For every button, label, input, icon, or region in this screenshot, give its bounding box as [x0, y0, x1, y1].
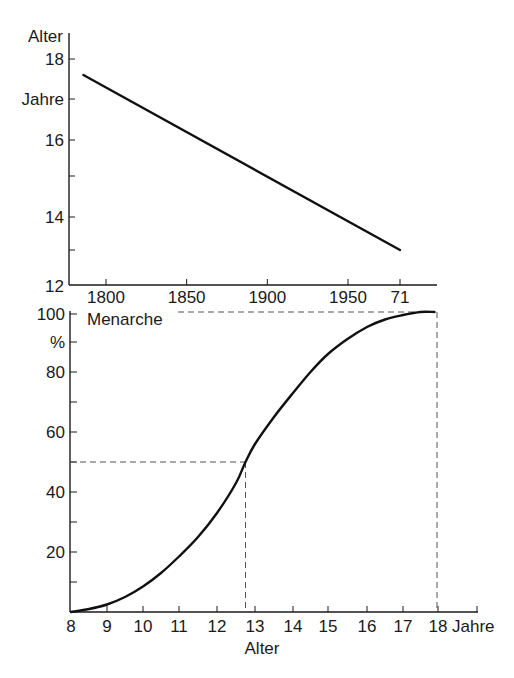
- x-tick-label: 18: [429, 617, 448, 636]
- x-axis-unit: Jahre: [452, 617, 495, 636]
- y-tick-label: 18: [45, 50, 64, 69]
- y-tick-label: %: [50, 333, 65, 352]
- x-tick-label: 9: [102, 617, 111, 636]
- x-tick-label: 1900: [248, 288, 286, 307]
- x-axis-title: Alter: [245, 639, 280, 658]
- y-tick-label: 100: [37, 305, 65, 324]
- x-tick-label: 1950: [329, 288, 367, 307]
- x-tick-label: 71: [391, 288, 410, 307]
- x-tick-label: 1850: [168, 288, 206, 307]
- x-tick-label: 11: [170, 617, 188, 636]
- x-tick-label: 8: [66, 617, 75, 636]
- y-tick-label: 14: [45, 208, 64, 227]
- y-tick-label: Jahre: [21, 90, 64, 109]
- x-tick-label: 13: [246, 617, 265, 636]
- x-tick-label: 16: [358, 617, 377, 636]
- x-tick-label: 10: [134, 617, 153, 636]
- top-y-axis-title: Alter: [28, 27, 63, 46]
- y-tick-label: 80: [46, 363, 65, 382]
- age-trend-chart: 121416Jahre18Alter180018501900195071: [21, 27, 437, 307]
- cumulative-menarche-chart: 20406080%10089101112131415161718JahreAlt…: [37, 305, 495, 658]
- age-trend-line: [83, 75, 400, 250]
- x-tick-label: 12: [208, 617, 227, 636]
- y-tick-label: 60: [46, 423, 65, 442]
- y-tick-label: 16: [45, 131, 64, 150]
- y-tick-label: 12: [45, 277, 64, 296]
- menarche-annotation: Menarche: [87, 310, 163, 329]
- menarche-chart: 121416Jahre18Alter180018501900195071 204…: [0, 0, 514, 678]
- x-tick-label: 1800: [87, 288, 125, 307]
- x-tick-label: 15: [319, 617, 338, 636]
- x-tick-label: 17: [394, 617, 413, 636]
- x-tick-label: 14: [284, 617, 303, 636]
- y-tick-label: 20: [46, 543, 65, 562]
- y-tick-label: 40: [46, 483, 65, 502]
